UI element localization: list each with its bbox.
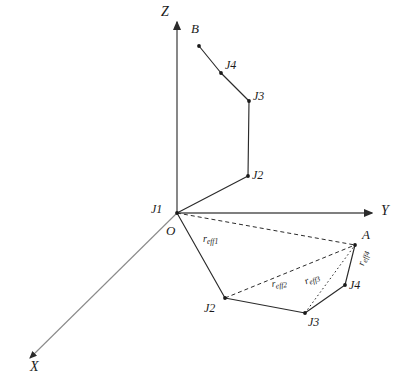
endpoint-dot-b: [197, 44, 201, 48]
joint-label-j4: J4: [225, 59, 236, 71]
joint-label-j1: J1: [151, 203, 162, 215]
joint-dot-j4-proj: [343, 283, 347, 287]
origin-label-o: O: [166, 224, 175, 237]
joint-dot-j1: [175, 211, 179, 215]
reff2-subscript: eff2: [275, 280, 287, 290]
axis-label-z: Z: [161, 5, 169, 19]
joint-dot-j2: [246, 174, 250, 178]
joint-label-j4-proj: J4: [349, 279, 360, 291]
joint-dot-j2-proj: [223, 296, 227, 300]
arm-link-polyline: [177, 46, 249, 213]
axis-label-x: X: [30, 360, 39, 374]
joint-dot-j4: [219, 71, 223, 75]
endpoint-label-b: B: [191, 22, 199, 35]
joint-label-j2: J2: [252, 169, 263, 181]
joint-label-j3: J3: [253, 90, 264, 102]
reff2-label: reff2: [271, 277, 287, 289]
reff1-subscript: eff1: [207, 237, 218, 246]
joint-label-j3-proj: J3: [308, 316, 319, 328]
joint-dot-j3: [247, 99, 251, 103]
reff1-label: reff1: [203, 234, 218, 244]
joint-dot-j3-proj: [303, 311, 307, 315]
endpoint-dot-a: [353, 243, 357, 247]
joint-label-j2-proj: J2: [204, 302, 215, 314]
kinematics-diagram: Z Y X J1 J2 J3 J4 B O J2 J3 J4 A reff1 r…: [0, 0, 401, 390]
diagram-canvas: [0, 0, 401, 390]
projection-link-polyline: [177, 213, 355, 313]
axis-line-x: [30, 213, 177, 358]
axis-label-y: Y: [381, 204, 389, 218]
endpoint-label-a: A: [362, 228, 370, 241]
